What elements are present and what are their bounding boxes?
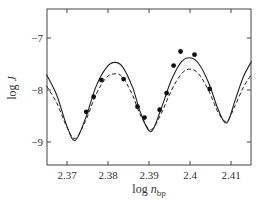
data-point xyxy=(178,49,183,54)
plot-frame xyxy=(47,9,251,165)
data-point xyxy=(99,78,104,83)
x-tick-label: 2.38 xyxy=(98,169,118,181)
x-tick-label: 2.39 xyxy=(139,169,159,181)
data-point xyxy=(164,91,169,96)
data-point xyxy=(84,109,89,114)
chart: 2.372.382.392.42.41−7−8−9 log nbp log J xyxy=(0,0,263,205)
y-tick-label: −7 xyxy=(31,32,43,44)
data-point xyxy=(207,87,212,92)
data-point xyxy=(142,115,147,120)
x-tick-label: 2.4 xyxy=(183,169,197,181)
data-point xyxy=(135,104,140,109)
y-tick-label: −9 xyxy=(31,136,43,148)
data-markers xyxy=(84,49,212,120)
x-tick-label: 2.37 xyxy=(57,169,77,181)
y-tick-label: −8 xyxy=(31,84,43,96)
solid-curve xyxy=(47,58,252,141)
x-tick-label: 2.41 xyxy=(221,169,240,181)
axis-ticks xyxy=(47,9,251,165)
data-point xyxy=(91,94,96,99)
data-point xyxy=(171,63,176,68)
x-axis-label: log nbp xyxy=(132,182,166,198)
data-point xyxy=(192,52,197,57)
dashed-curve xyxy=(47,69,252,138)
data-point xyxy=(157,107,162,112)
data-point xyxy=(121,77,126,82)
y-axis-label: log J xyxy=(5,75,19,99)
